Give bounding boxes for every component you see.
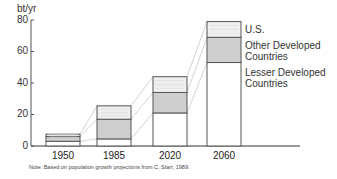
y-tick-label-0: 0 xyxy=(8,140,28,151)
bar-segment-2060 xyxy=(207,37,241,62)
legend-label-us: U.S. xyxy=(245,24,264,35)
legend-label-other-line1: Other Developed xyxy=(245,40,321,51)
bar-segment-2020 xyxy=(153,113,187,146)
bar-segment-1985 xyxy=(97,119,131,139)
bar-segment-1950 xyxy=(46,137,80,142)
y-tick-label-20: 20 xyxy=(8,108,28,119)
connector-line xyxy=(80,106,97,134)
x-tick-label-2060: 2060 xyxy=(204,150,244,161)
connector-line xyxy=(131,113,153,139)
x-tick-label-1950: 1950 xyxy=(43,150,83,161)
connector-line xyxy=(187,22,207,77)
connector-line xyxy=(131,77,153,106)
bar-segment-1950 xyxy=(46,141,80,146)
legend-label-ldc-line1: Lesser Developed xyxy=(245,67,326,78)
connector-line xyxy=(80,139,97,141)
connector-line xyxy=(80,119,97,136)
y-tick-label-60: 60 xyxy=(8,45,28,56)
bar-segment-2020 xyxy=(153,92,187,112)
y-tick-label-40: 40 xyxy=(8,77,28,88)
legend-label-other-line2: Countries xyxy=(245,51,321,62)
stacked-bar-chart: bt/yr 80 60 40 20 0 1950 1985 2020 2060 … xyxy=(0,0,337,179)
bar-segment-2060 xyxy=(207,63,241,146)
y-tick-label-80: 80 xyxy=(8,14,28,25)
connector-line xyxy=(131,92,153,119)
legend-label-other-developed: Other Developed Countries xyxy=(245,40,321,62)
x-tick-label-2020: 2020 xyxy=(150,150,190,161)
bar-segment-1985 xyxy=(97,139,131,146)
legend-label-lesser-developed: Lesser Developed Countries xyxy=(245,67,326,89)
legend-label-ldc-line2: Countries xyxy=(245,78,326,89)
chart-note: Note: Based on population growth project… xyxy=(29,164,190,170)
x-tick-label-1985: 1985 xyxy=(94,150,134,161)
connector-line xyxy=(187,63,207,113)
connector-line xyxy=(187,37,207,92)
y-axis-unit-label: bt/yr xyxy=(17,3,36,14)
